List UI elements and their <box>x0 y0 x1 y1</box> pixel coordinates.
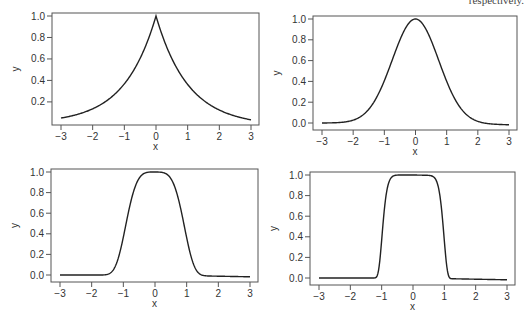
y-tick-label: 0.4 <box>30 228 44 239</box>
x-tick-label: 1 <box>184 288 190 299</box>
data-curve <box>322 19 509 125</box>
chart-grid: −3−2−101230.20.40.60.81.0xy−3−2−101230.0… <box>0 0 530 325</box>
y-tick-label: 0.0 <box>289 273 303 284</box>
x-tick-label: −1 <box>379 136 391 147</box>
x-tick-label: 1 <box>185 131 191 142</box>
plot-panel-2: −3−2−101230.00.20.40.60.81.0xy <box>271 14 517 158</box>
plot-panel-4: −3−2−101230.00.20.40.60.81.0xy <box>268 170 515 313</box>
x-tick-label: 2 <box>216 288 222 299</box>
x-tick-label: −2 <box>87 131 99 142</box>
x-tick-label: −2 <box>345 291 357 302</box>
y-axis-label: y <box>271 71 282 76</box>
y-tick-label: 0.6 <box>31 53 45 64</box>
y-tick-label: 0.4 <box>31 75 45 86</box>
x-tick-label: 2 <box>473 291 479 302</box>
y-tick-label: 1.0 <box>292 14 306 25</box>
x-tick-label: −3 <box>313 291 325 302</box>
x-tick-label: −1 <box>119 131 131 142</box>
y-tick-label: 0.0 <box>30 270 44 281</box>
plot-frame <box>310 172 515 285</box>
x-axis-label: x <box>153 141 158 152</box>
y-tick-label: 0.8 <box>292 34 306 45</box>
x-tick-label: 1 <box>442 291 448 302</box>
x-tick-label: −1 <box>376 291 388 302</box>
plot-frame <box>51 169 258 282</box>
x-tick-label: 3 <box>504 291 510 302</box>
y-axis-label: y <box>9 223 20 228</box>
y-tick-label: 0.0 <box>292 118 306 129</box>
y-tick-label: 0.6 <box>292 55 306 66</box>
y-tick-label: 0.4 <box>289 231 303 242</box>
x-tick-label: −1 <box>118 288 130 299</box>
data-curve <box>319 175 507 280</box>
y-tick-label: 1.0 <box>31 11 45 22</box>
x-tick-label: −3 <box>55 131 67 142</box>
y-tick-label: 0.6 <box>30 208 44 219</box>
x-tick-label: −2 <box>347 136 359 147</box>
x-tick-label: 3 <box>248 131 254 142</box>
y-tick-label: 1.0 <box>30 167 44 178</box>
plot-frame <box>52 13 259 125</box>
y-tick-label: 0.4 <box>292 76 306 87</box>
x-tick-label: 1 <box>444 136 450 147</box>
x-axis-label: x <box>152 298 157 309</box>
data-curve <box>61 16 251 120</box>
x-axis-label: x <box>413 146 418 157</box>
y-tick-label: 0.2 <box>31 96 45 107</box>
y-tick-label: 0.8 <box>289 190 303 201</box>
y-tick-label: 0.8 <box>30 187 44 198</box>
y-tick-label: 0.8 <box>31 32 45 43</box>
plot-frame <box>313 16 517 130</box>
data-curve <box>60 172 250 277</box>
x-tick-label: 3 <box>506 136 512 147</box>
x-tick-label: −3 <box>54 288 66 299</box>
y-tick-label: 0.2 <box>292 97 306 108</box>
x-tick-label: −2 <box>86 288 98 299</box>
x-axis-label: x <box>410 301 415 312</box>
y-axis-label: y <box>268 226 279 231</box>
x-tick-label: −3 <box>316 136 328 147</box>
x-tick-label: 3 <box>247 288 253 299</box>
plot-panel-3: −3−2−101230.00.20.40.60.81.0xy <box>9 167 258 310</box>
x-tick-label: 2 <box>217 131 223 142</box>
y-tick-label: 0.2 <box>30 249 44 260</box>
plot-panel-1: −3−2−101230.20.40.60.81.0xy <box>10 11 259 153</box>
y-tick-label: 1.0 <box>289 170 303 181</box>
y-tick-label: 0.6 <box>289 211 303 222</box>
x-tick-label: 2 <box>475 136 481 147</box>
y-axis-label: y <box>10 67 21 72</box>
y-tick-label: 0.2 <box>289 252 303 263</box>
